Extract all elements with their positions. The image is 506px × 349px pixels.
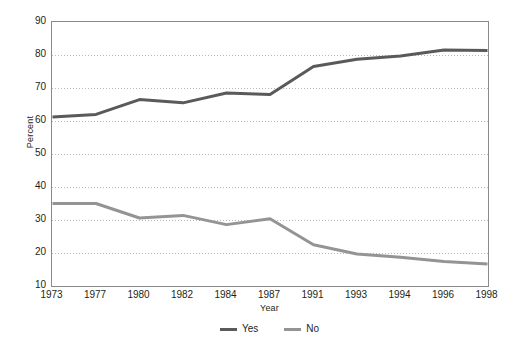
y-tick-label: 30 [20,214,46,224]
legend-label: Yes [242,324,258,334]
chart-canvas [52,22,488,286]
x-tick-label: 1993 [345,289,367,301]
legend-swatch-icon [284,328,301,331]
chart-legend: YesNo [51,320,488,338]
x-tick-label: 1980 [127,289,149,301]
series-line-no [53,204,488,264]
gridlines [52,55,488,253]
series-lines [53,50,488,264]
legend-item-yes[interactable]: Yes [220,324,258,334]
x-tick-label: 1991 [301,289,323,301]
legend-item-no[interactable]: No [284,324,319,334]
chart-figure: Percent 908070605040302010 1973197719801… [0,0,506,349]
plot-area [51,21,489,287]
x-axis-tick-labels: 1973197719801982198419871991199319941996… [51,289,488,303]
series-line-yes [53,50,488,117]
x-axis-title: Year [51,303,488,313]
legend-swatch-icon [220,328,237,331]
y-tick-label: 20 [20,247,46,257]
legend-label: No [306,324,319,334]
x-tick-label: 1987 [258,289,280,301]
x-tick-label: 1998 [475,289,497,301]
x-tick-label: 1994 [388,289,410,301]
y-tick-label: 70 [20,82,46,92]
x-tick-label: 1973 [40,289,62,301]
y-tick-label: 60 [20,115,46,125]
x-tick-label: 1984 [214,289,236,301]
x-tick-label: 1982 [171,289,193,301]
x-tick-label: 1996 [432,289,454,301]
y-tick-label: 50 [20,148,46,158]
y-tick-label: 90 [20,16,46,26]
x-tick-label: 1977 [84,289,106,301]
y-tick-label: 80 [20,49,46,59]
y-tick-label: 40 [20,181,46,191]
